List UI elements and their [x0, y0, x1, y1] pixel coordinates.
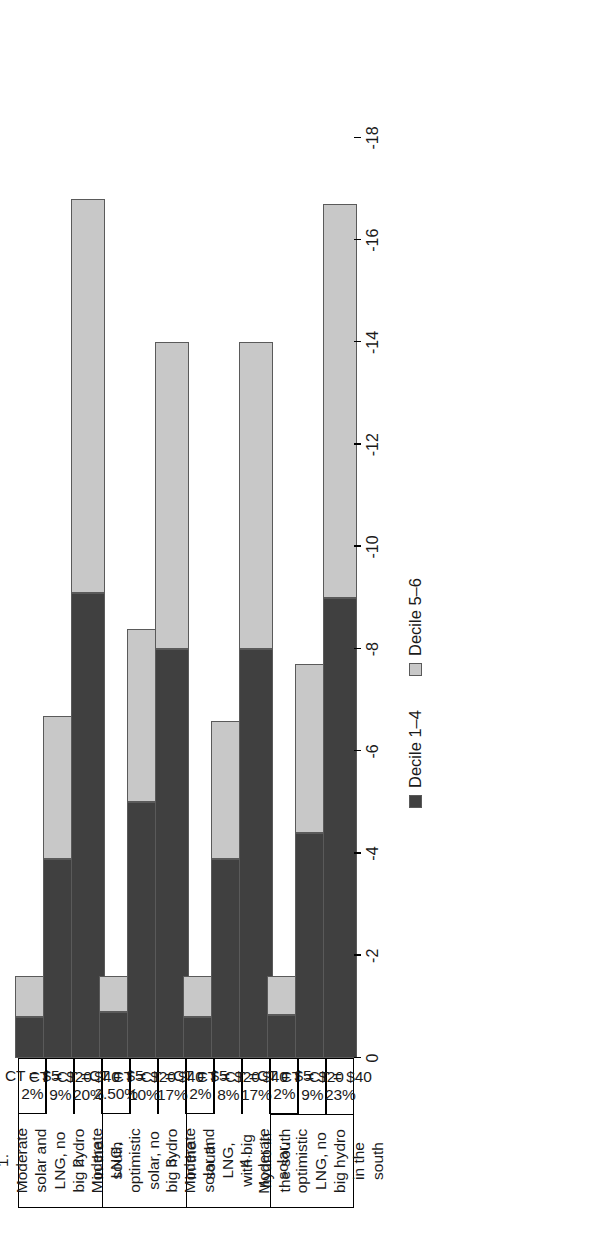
legend-item[interactable]: Decile 1–4: [406, 710, 425, 808]
legend-swatch-icon: [409, 795, 422, 808]
axis-tick: [354, 648, 361, 649]
axis-tick: [354, 1057, 361, 1058]
percent-label: 23%: [308, 1086, 371, 1104]
axis-tick-label: -18: [364, 126, 382, 149]
category-label-inner: CT = $4023%: [308, 1068, 371, 1105]
axis-tick-label: -6: [364, 744, 382, 758]
legend-label: Decile 1–4: [406, 710, 425, 788]
group-title: 4. Moderate solar, optimistic LNG, no bi…: [270, 1114, 354, 1208]
axis-tick: [354, 750, 361, 751]
axis-tick: [354, 954, 361, 955]
axis-tick-label: -2: [364, 949, 382, 963]
legend-swatch-icon: [409, 663, 422, 676]
category-label-cell: CT = $4023%: [326, 1058, 354, 1114]
axis-tick: [354, 443, 361, 444]
legend-label: Decile 5–6: [406, 578, 425, 656]
carbon-tax-label: CT = $40: [308, 1068, 371, 1086]
bar-segment: [323, 598, 357, 1058]
legend-item[interactable]: Decile 5–6: [406, 578, 425, 676]
axis-tick: [354, 341, 361, 342]
value-axis-ticks: 0-2-4-6-8-10-12-14-16-18: [354, 138, 394, 1058]
rotated-chart-canvas: 1. Moderate solar and LNG, no big hydro …: [0, 0, 604, 1260]
group-title-text: 4. Moderate solar, optimistic LNG, no bi…: [236, 1127, 387, 1195]
bar-chart-figure: 1. Moderate solar and LNG, no big hydro …: [0, 0, 604, 1260]
axis-tick-label: -14: [364, 331, 382, 354]
bar-segment: [323, 204, 357, 598]
axis-tick-label: -16: [364, 229, 382, 252]
chart-legend: Decile 1–4Decile 5–6: [406, 578, 425, 808]
axis-tick-label: -4: [364, 846, 382, 860]
bar-group: [323, 138, 357, 1058]
axis-tick-label: -10: [364, 535, 382, 558]
axis-tick: [354, 546, 361, 547]
plot-area: 1. Moderate solar and LNG, no big hydro …: [18, 138, 354, 1208]
axis-tick-label: -12: [364, 433, 382, 456]
axis-tick: [354, 137, 361, 138]
axis-tick-label: -8: [364, 642, 382, 656]
axis-tick: [354, 239, 361, 240]
axis-tick: [354, 852, 361, 853]
axis-tick-label: 0: [364, 1054, 382, 1063]
